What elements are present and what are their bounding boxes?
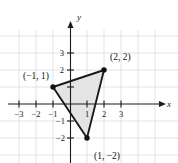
x-axis-label: x — [166, 99, 171, 109]
vertex-dot-c — [84, 135, 89, 140]
vertex-label-b: (2, 2) — [110, 52, 131, 63]
tick-label-y-minus1: −1 — [56, 116, 65, 126]
y-axis-label: y — [76, 12, 81, 22]
tick-label-y-2: 2 — [60, 65, 64, 75]
tick-label-y-3: 3 — [60, 48, 64, 58]
vertex-label-a: (−1, 1) — [23, 71, 49, 82]
tick-label-x-3: 3 — [119, 109, 123, 119]
tick-label-x-2: 2 — [102, 109, 106, 119]
graph-canvas: −3 −2 −1 1 2 3 3 2 −1 −2 x y (−1, 1) (2,… — [0, 0, 178, 163]
coordinate-plane-figure: −3 −2 −1 1 2 3 3 2 −1 −2 x y (−1, 1) (2,… — [0, 0, 178, 163]
x-axis-arrow-icon — [159, 101, 166, 107]
tick-label-y-minus2: −2 — [56, 133, 65, 143]
tick-label-x-minus2: −2 — [31, 109, 40, 119]
vertex-label-c: (1, −2) — [94, 151, 120, 162]
vertex-dot-b — [101, 67, 106, 72]
y-axis-arrow-icon — [68, 21, 74, 28]
tick-label-x-1: 1 — [85, 109, 89, 119]
tick-label-x-minus3: −3 — [14, 109, 23, 119]
vertex-dot-a — [50, 84, 55, 89]
